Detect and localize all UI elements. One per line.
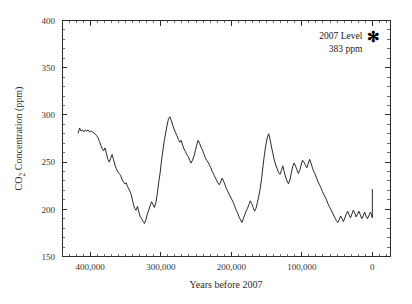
y-axis-title: CO2 Concentration (ppm) xyxy=(13,87,27,191)
annotation-label-line1: 2007 Level xyxy=(319,31,362,41)
y-tick-label: 150 xyxy=(42,252,56,262)
x-tick-label: 300,000 xyxy=(146,262,176,272)
data-series-line xyxy=(78,117,372,224)
plot-frame xyxy=(62,21,390,257)
chart-figure: 400,000300,000200,000100,0000Years befor… xyxy=(0,0,412,304)
y-tick-label: 200 xyxy=(42,205,56,215)
y-tick-label: 400 xyxy=(42,16,56,26)
star-marker-icon: ✻ xyxy=(367,29,380,45)
x-axis-title: Years before 2007 xyxy=(190,279,263,290)
x-tick-label: 200,000 xyxy=(217,262,247,272)
y-tick-label: 300 xyxy=(42,110,56,120)
y-tick-label: 350 xyxy=(42,63,56,73)
y-tick-label: 250 xyxy=(42,157,56,167)
x-tick-label: 400,000 xyxy=(76,262,106,272)
x-tick-label: 0 xyxy=(370,262,375,272)
x-tick-label: 100,000 xyxy=(287,262,317,272)
annotation-label-line2: 383 ppm xyxy=(329,44,363,54)
co2-line-chart: 400,000300,000200,000100,0000Years befor… xyxy=(0,0,412,304)
